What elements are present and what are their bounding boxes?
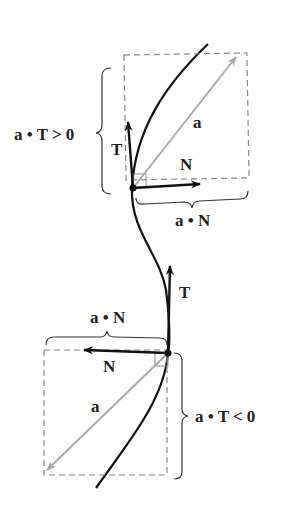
top-point — [130, 185, 137, 192]
top-tangential-brace — [96, 68, 111, 194]
bottom-normal-component-label: a • N — [90, 308, 126, 327]
bottom-point — [165, 350, 172, 357]
bottom-tangent-label: T — [179, 283, 191, 302]
top-tangent-label: T — [111, 140, 123, 159]
top-tangent-vector — [128, 122, 133, 188]
top-normal-label: N — [180, 155, 193, 174]
diagram-canvas: a T N a • T > 0 a • N T N a a • N a • T … — [0, 0, 285, 508]
top-accel-label: a — [193, 113, 202, 132]
bottom-accel-label: a — [91, 397, 100, 416]
bottom-point-group: T N a a • N a • T < 0 — [44, 266, 255, 479]
top-point-group: a T N a • T > 0 a • N — [14, 53, 249, 230]
bottom-normal-label: N — [103, 357, 116, 376]
top-normal-component-label: a • N — [175, 211, 211, 230]
bottom-tangential-component-label: a • T < 0 — [195, 407, 255, 426]
top-tangential-component-label: a • T > 0 — [14, 125, 74, 144]
curve-path — [96, 44, 208, 488]
top-normal-brace — [136, 191, 248, 208]
top-normal-vector — [133, 184, 200, 188]
bottom-normal-brace — [46, 331, 167, 345]
bottom-tangential-brace — [174, 353, 188, 479]
